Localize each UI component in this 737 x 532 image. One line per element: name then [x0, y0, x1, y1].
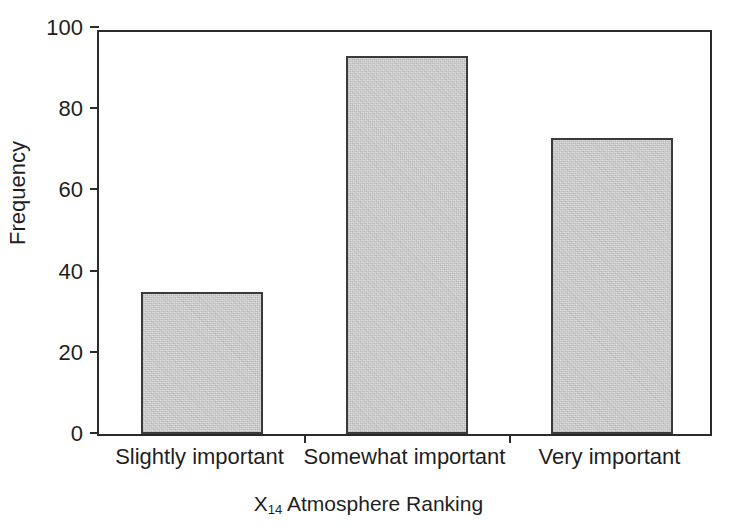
- y-tick-60: 60: [90, 188, 99, 190]
- y-tick-label: 0: [71, 423, 83, 445]
- x-axis-title-rest: Atmosphere Ranking: [282, 492, 483, 515]
- y-axis-title: Frequency: [5, 141, 31, 245]
- y-tick-0: 0: [90, 432, 99, 434]
- y-tick-80: 80: [90, 107, 99, 109]
- y-tick-40: 40: [90, 270, 99, 272]
- bar-chart-figure: Frequency 100806040200 Slightly importan…: [0, 0, 737, 532]
- y-tick-label: 40: [59, 261, 83, 283]
- y-tick-label: 100: [46, 17, 83, 39]
- y-tick-label: 60: [59, 179, 83, 201]
- x-axis-title: X14 Atmosphere Ranking: [0, 492, 737, 517]
- y-tick-label: 20: [59, 342, 83, 364]
- x-tick: [509, 434, 511, 443]
- category-label: Very important: [507, 444, 712, 470]
- bar: [551, 138, 673, 434]
- x-axis-title-subscript: 14: [268, 502, 282, 517]
- category-label: Somewhat important: [302, 444, 507, 470]
- x-tick: [304, 434, 306, 443]
- y-tick-label: 80: [59, 98, 83, 120]
- y-tick-20: 20: [90, 351, 99, 353]
- plot-area: 100806040200: [97, 30, 712, 436]
- y-tick-100: 100: [90, 26, 99, 28]
- bar: [141, 292, 263, 434]
- category-label: Slightly important: [97, 444, 302, 470]
- bar: [346, 56, 468, 434]
- x-axis-title-base: X: [254, 492, 268, 515]
